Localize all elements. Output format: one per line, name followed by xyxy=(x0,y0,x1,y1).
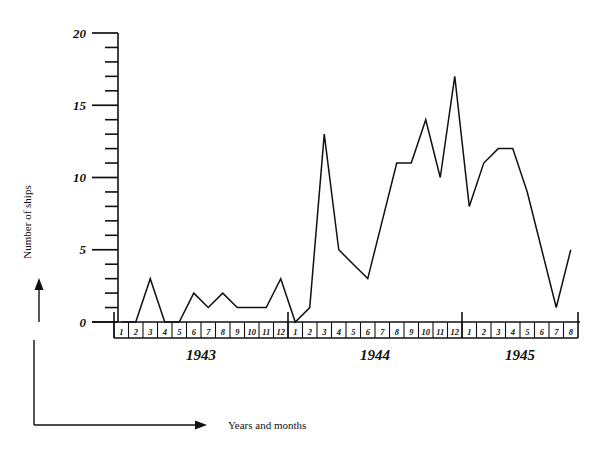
month-label: 5 xyxy=(525,327,530,337)
month-label: 1 xyxy=(467,327,471,337)
x-axis-month-cells xyxy=(114,322,578,338)
ships-data-line xyxy=(121,76,571,322)
month-label: 5 xyxy=(351,327,356,337)
month-label: 5 xyxy=(177,327,182,337)
month-label: 7 xyxy=(380,327,385,337)
month-label: 4 xyxy=(336,327,341,337)
month-label: 7 xyxy=(554,327,559,337)
month-label: 10 xyxy=(422,327,431,337)
month-label: 2 xyxy=(481,327,487,337)
month-label: 1 xyxy=(293,327,297,337)
y-axis-arrow xyxy=(35,278,44,322)
month-label: 4 xyxy=(162,327,167,337)
month-label: 3 xyxy=(321,327,327,337)
month-label: 2 xyxy=(307,327,313,337)
y-tick-label: 15 xyxy=(73,98,87,113)
month-label: 3 xyxy=(147,327,153,337)
month-label: 11 xyxy=(262,327,270,337)
x-axis-title: Years and months xyxy=(228,419,306,431)
y-tick-label: 20 xyxy=(72,26,87,41)
month-label: 10 xyxy=(248,327,257,337)
y-tick-label: 5 xyxy=(80,242,87,257)
y-axis-ticks xyxy=(92,33,118,322)
year-label: 1945 xyxy=(505,347,536,363)
month-label: 8 xyxy=(395,327,400,337)
month-label: 2 xyxy=(133,327,139,337)
year-label: 1943 xyxy=(186,347,217,363)
y-tick-label: 0 xyxy=(80,315,87,330)
month-label: 12 xyxy=(277,327,286,337)
hand-drawn-line-chart: 05101520 1234567891011121234567891011121… xyxy=(0,0,610,453)
month-label: 1 xyxy=(119,327,123,337)
chart-page: 05101520 1234567891011121234567891011121… xyxy=(0,0,610,453)
year-label: 1944 xyxy=(360,347,391,363)
month-label: 6 xyxy=(192,327,197,337)
month-label: 8 xyxy=(221,327,226,337)
month-label: 8 xyxy=(569,327,574,337)
month-label: 4 xyxy=(510,327,515,337)
x-axis-year-labels: 194319441945 xyxy=(186,347,536,363)
month-label: 11 xyxy=(436,327,444,337)
month-label: 6 xyxy=(366,327,371,337)
y-axis-title: Number of ships xyxy=(21,185,33,258)
month-label: 9 xyxy=(409,327,414,337)
x-axis-arrow xyxy=(34,340,207,430)
month-label: 3 xyxy=(495,327,501,337)
month-label: 6 xyxy=(540,327,545,337)
month-label: 9 xyxy=(235,327,240,337)
month-label: 12 xyxy=(451,327,460,337)
y-axis-tick-labels: 05101520 xyxy=(72,26,87,330)
y-tick-label: 10 xyxy=(73,170,87,185)
month-label: 7 xyxy=(206,327,211,337)
